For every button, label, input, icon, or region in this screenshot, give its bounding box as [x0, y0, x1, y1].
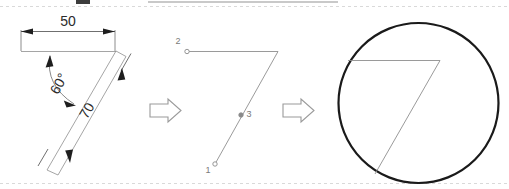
dimension-arrow-50-left — [21, 29, 33, 35]
top-artifact-dark — [76, 0, 90, 4]
panel-polyline-points: 2 3 1 — [175, 36, 278, 175]
inscribed-diagonal-segment — [375, 61, 440, 175]
point-2-marker[interactable] — [185, 49, 189, 53]
figure-root: 50 60° 70 — [0, 0, 509, 189]
point-3-label: 3 — [246, 109, 251, 119]
dimension-label-70: 70 — [76, 100, 98, 122]
point-2-label: 2 — [175, 36, 180, 46]
point-3-marker[interactable] — [239, 113, 243, 117]
sketch-bar-cap-bottom — [47, 170, 58, 175]
step-arrow-1-glyph — [150, 99, 181, 122]
panel-dimensioned-sketch: 50 60° 70 — [21, 13, 131, 175]
point-1-marker[interactable] — [213, 162, 217, 166]
dimension-leader-70-bottom — [38, 149, 48, 166]
point-1-label: 1 — [205, 165, 210, 175]
diagram-canvas: 50 60° 70 — [0, 0, 509, 189]
panel-inscribed-circle — [339, 23, 499, 183]
step-arrow-2-glyph — [283, 99, 314, 122]
angle-arrow-60-top — [46, 55, 54, 67]
top-artifact-light — [148, 1, 338, 3]
bounding-circle — [339, 23, 499, 183]
step-arrow-2 — [283, 99, 314, 122]
polyline-diagonal-segment — [215, 52, 278, 165]
step-arrow-1 — [150, 99, 181, 122]
sketch-bar-cap-top — [116, 51, 126, 57]
dimension-label-50: 50 — [60, 13, 76, 29]
dimension-arrow-50-right — [103, 29, 115, 35]
